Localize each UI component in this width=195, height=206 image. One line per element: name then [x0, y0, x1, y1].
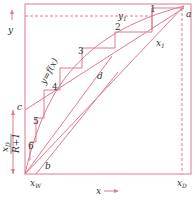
xw-label: xW [30, 178, 42, 189]
stage-label-5: 5 [33, 116, 39, 126]
point-a-label: a [186, 9, 191, 19]
point-c-label: c [17, 102, 22, 112]
svg-text:xD: xD [0, 142, 11, 152]
stage-label-2: 2 [115, 22, 121, 32]
y-axis-label: y [7, 25, 14, 35]
stage-label-3: 3 [78, 46, 84, 56]
intercept-arrow-up-icon [11, 110, 15, 115]
x-axis-label: x [96, 186, 101, 196]
x-axis-arrowhead-icon [114, 189, 119, 193]
x1-label: x1 [156, 38, 165, 49]
point-d-label: d [97, 71, 103, 81]
y1-label: y1 [117, 11, 127, 22]
intercept-arrow-down-icon [11, 169, 15, 174]
intercept-label: xD R+1 [0, 133, 21, 154]
xd-label: xD [177, 178, 187, 189]
svg-text:R+1: R+1 [11, 133, 21, 154]
plot-frame [25, 4, 191, 174]
y-axis-arrowhead-icon [10, 9, 14, 14]
stripping-line [36, 72, 118, 174]
stage-label-1: 1 [150, 4, 156, 14]
stage-label-4: 4 [52, 82, 58, 92]
mccabe-thiele-diagram: y x y=f(x) a b c d 1 2 3 4 5 6 y1 x1 xD … [0, 0, 195, 206]
stage-label-6: 6 [28, 141, 34, 151]
point-b-label: b [45, 161, 51, 171]
